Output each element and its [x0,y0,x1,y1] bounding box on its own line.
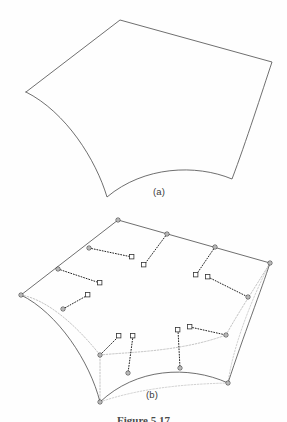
boundary-node-dot [179,367,180,368]
offset-vector-6 [208,277,248,297]
panel-label-b: (b) [146,389,158,400]
square-node [176,328,180,332]
boundary-control-point-centers [20,219,270,402]
panel-b-drawing [19,218,272,404]
offset-vector-9 [178,330,180,368]
control-polygon-path [21,295,100,402]
boundary-node-dot [57,268,58,269]
boundary-node-dot [166,233,167,234]
offset-vector-7 [100,336,119,355]
panel-label-a: (a) [153,186,165,197]
offset-vector-3 [58,269,100,283]
boundary-node-dot [88,247,89,248]
square-node [142,263,146,267]
boundary-node-dot [99,354,100,355]
boundary-node-dot [269,262,270,263]
offset-vector-5 [196,247,215,275]
control-polygon-path-bottom2 [100,383,228,402]
boundary-node-dot [127,372,128,373]
figure-svg [0,0,287,422]
square-node [130,255,134,259]
square-node [194,273,198,277]
offset-vector-8 [128,336,133,373]
panel-a-drawing [26,20,272,197]
boundary-node-dot [227,382,228,383]
square-node [206,275,210,279]
tangent-offset-vectors [58,234,248,373]
square-node [98,281,102,285]
boundary-node-dot [20,294,21,295]
square-node [86,293,90,297]
panel-a-outline [26,20,272,197]
square-node [188,325,192,329]
square-node [117,334,121,338]
boundary-node-dot [214,246,215,247]
boundary-node-dot [117,219,118,220]
boundary-node-dot [99,401,100,402]
offset-vector-4 [63,295,88,309]
figure-root: (a) (b) Figure 5.17 [0,0,287,422]
offset-vector-2 [144,234,167,265]
offset-vector-1 [89,248,132,257]
boundary-node-dot [62,308,63,309]
cross-boundary-control-points [86,255,210,338]
boundary-node-dot [247,296,248,297]
offset-vector-10 [190,327,226,335]
panel-b-outline [21,220,270,402]
figure-caption: Figure 5.17 [0,414,287,422]
square-node [131,334,135,338]
boundary-node-dot [225,334,226,335]
